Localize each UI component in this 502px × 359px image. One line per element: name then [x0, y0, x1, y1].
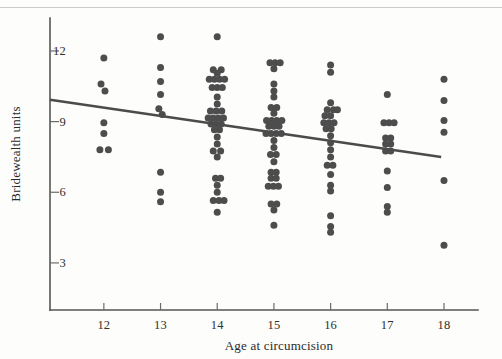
data-point: [100, 55, 107, 62]
y-tick-label-9: 9: [38, 114, 66, 129]
data-point: [157, 33, 164, 40]
data-point: [105, 146, 112, 153]
y-tick-label-12: 12: [38, 43, 66, 58]
data-point: [276, 123, 283, 130]
x-axis-title: Age at circumcision: [225, 338, 334, 354]
data-point: [277, 59, 284, 66]
data-point: [270, 206, 277, 213]
data-point: [270, 158, 277, 165]
data-point: [217, 175, 224, 182]
data-point: [384, 91, 391, 98]
data-point: [96, 146, 103, 153]
data-point: [273, 151, 280, 158]
data-point: [327, 69, 334, 76]
x-tick-label-12: 12: [97, 318, 110, 333]
x-tick-label-15: 15: [267, 318, 280, 333]
data-point: [384, 184, 391, 191]
data-point: [391, 119, 398, 126]
data-point: [214, 100, 221, 107]
data-point: [275, 183, 282, 190]
data-point: [384, 168, 391, 175]
data-point: [440, 97, 447, 104]
data-point: [217, 148, 224, 155]
data-point: [327, 112, 334, 119]
data-point: [157, 78, 164, 85]
data-point: [210, 148, 217, 155]
data-point: [270, 93, 277, 100]
data-point: [270, 65, 277, 72]
data-point: [327, 229, 334, 236]
data-point: [327, 62, 334, 69]
x-tick-label-16: 16: [324, 318, 337, 333]
data-point: [270, 80, 277, 87]
data-point: [214, 153, 221, 160]
data-points-group: [96, 33, 447, 248]
data-point: [214, 133, 221, 140]
data-point: [440, 117, 447, 124]
plot-area: 12131415161718 36912 Age at circumcision…: [0, 0, 502, 359]
data-point: [100, 130, 107, 137]
data-point: [384, 209, 391, 216]
data-point: [157, 169, 164, 176]
data-point: [270, 137, 277, 144]
data-point: [327, 212, 334, 219]
y-tick-label-3: 3: [38, 255, 66, 270]
data-point: [221, 197, 228, 204]
data-point: [270, 110, 277, 117]
data-point: [440, 129, 447, 136]
data-point: [327, 99, 334, 106]
data-point: [214, 140, 221, 147]
data-point: [157, 64, 164, 71]
x-tick-label-17: 17: [381, 318, 394, 333]
data-point: [334, 106, 341, 113]
data-point: [327, 153, 334, 160]
data-point: [214, 33, 221, 40]
axes: [50, 18, 478, 310]
data-point: [440, 76, 447, 83]
data-point: [157, 198, 164, 205]
data-point: [387, 140, 394, 147]
data-point: [329, 162, 336, 169]
data-point: [216, 126, 223, 133]
data-point: [157, 189, 164, 196]
data-point: [327, 132, 334, 139]
data-point: [440, 242, 447, 249]
data-point: [327, 171, 334, 178]
data-point: [270, 144, 277, 151]
data-point: [270, 222, 277, 229]
data-point: [328, 125, 335, 132]
data-point: [273, 175, 280, 182]
data-point: [214, 182, 221, 189]
data-point: [157, 91, 164, 98]
data-point: [327, 188, 334, 195]
data-point: [214, 93, 221, 100]
data-point: [214, 189, 221, 196]
data-point: [214, 209, 221, 216]
data-point: [327, 146, 334, 153]
bridewealth-scatter-figure: 12131415161718 36912 Age at circumcision…: [0, 0, 502, 359]
data-point: [155, 105, 162, 112]
data-point: [100, 119, 107, 126]
y-tick-label-6: 6: [38, 185, 66, 200]
chart-canvas: [0, 0, 502, 359]
data-point: [221, 76, 228, 83]
x-tick-label-14: 14: [211, 318, 224, 333]
x-tick-label-18: 18: [438, 318, 451, 333]
data-point: [219, 84, 226, 91]
data-point: [218, 108, 225, 115]
data-point: [98, 80, 105, 87]
data-point: [440, 177, 447, 184]
y-axis-title: Bridewealth units: [8, 106, 24, 201]
x-tick-label-13: 13: [154, 318, 167, 333]
data-point: [101, 88, 108, 95]
